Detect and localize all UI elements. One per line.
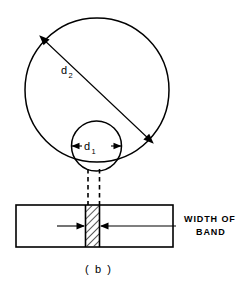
d1-label: d 1 [84,140,96,156]
figure-caption: ( b ) [85,263,113,275]
figure-container: d 2 d 1 [0,0,252,283]
d2-dimension-line [39,35,154,144]
d1-label-symbol: d [84,140,90,152]
technical-diagram: d 2 d 1 [0,0,252,283]
callout-line-1: WIDTH OF [184,214,236,224]
d2-label: d 2 [61,64,73,80]
band-width-dimension [57,223,176,230]
hatched-band [86,206,100,246]
d2-label-subscript: 2 [69,71,73,80]
callout-line-2: BAND [196,227,226,237]
d1-dimension-line [72,143,122,149]
width-of-band-callout: WIDTH OF BAND [184,214,236,237]
d2-label-symbol: d [61,64,67,76]
d1-label-subscript: 1 [92,147,96,156]
